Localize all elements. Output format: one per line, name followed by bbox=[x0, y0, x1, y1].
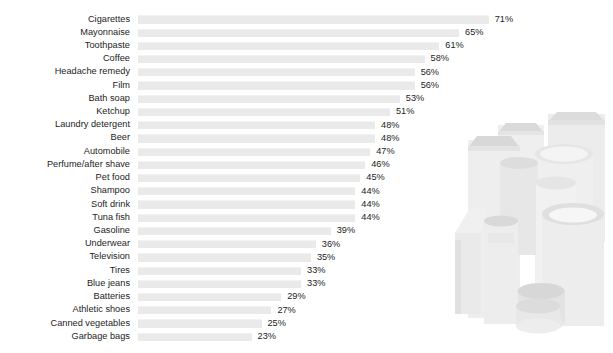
bar-value-label: 36% bbox=[322, 238, 340, 251]
category-label: Ketchup bbox=[0, 105, 130, 118]
chart-row: Laundry detergent48% bbox=[0, 119, 613, 132]
category-label: Film bbox=[0, 79, 130, 92]
category-label: Soft drink bbox=[0, 198, 130, 211]
bar-value-label: 48% bbox=[381, 119, 399, 132]
chart-row: Toothpaste61% bbox=[0, 39, 613, 52]
plot-area: Cigarettes71%Mayonnaise65%Toothpaste61%C… bbox=[0, 13, 613, 343]
bar-track: 47% bbox=[138, 148, 370, 156]
category-label: Perfume/after shave bbox=[0, 158, 130, 171]
chart-row: Blue jeans33% bbox=[0, 277, 613, 290]
bar bbox=[138, 68, 415, 76]
bar-track: 35% bbox=[138, 253, 311, 261]
bar-value-label: 39% bbox=[337, 224, 355, 237]
bar-value-label: 58% bbox=[431, 52, 449, 65]
category-label: Headache remedy bbox=[0, 65, 130, 78]
chart-row: Television35% bbox=[0, 251, 613, 264]
category-label: Underwear bbox=[0, 237, 130, 250]
category-label: Canned vegetables bbox=[0, 317, 130, 330]
category-label: Shampoo bbox=[0, 184, 130, 197]
bar-value-label: 44% bbox=[361, 185, 379, 198]
chart-row: Ketchup51% bbox=[0, 106, 613, 119]
bar-value-label: 65% bbox=[465, 26, 483, 39]
bar-value-label: 47% bbox=[376, 145, 394, 158]
bar bbox=[138, 42, 439, 50]
bar-value-label: 56% bbox=[421, 66, 439, 79]
chart-row: Cigarettes71% bbox=[0, 13, 613, 26]
bar bbox=[138, 148, 370, 156]
bar bbox=[138, 280, 301, 288]
bar-track: 53% bbox=[138, 95, 400, 103]
bar-value-label: 56% bbox=[421, 79, 439, 92]
category-label: Television bbox=[0, 250, 130, 263]
bar-track: 71% bbox=[138, 15, 489, 23]
chart-row: Tuna fish44% bbox=[0, 211, 613, 224]
bar bbox=[138, 227, 331, 235]
chart-row: Underwear36% bbox=[0, 238, 613, 251]
bar-value-label: 71% bbox=[495, 13, 513, 26]
bar-track: 25% bbox=[138, 319, 262, 327]
bar-track: 36% bbox=[138, 240, 316, 248]
bar bbox=[138, 108, 390, 116]
category-label: Mayonnaise bbox=[0, 26, 130, 39]
bar-track: 33% bbox=[138, 280, 301, 288]
bar-value-label: 61% bbox=[445, 39, 463, 52]
bar bbox=[138, 319, 262, 327]
chart-row: Tires33% bbox=[0, 264, 613, 277]
bar-track: 65% bbox=[138, 29, 459, 37]
bar-value-label: 35% bbox=[317, 251, 335, 264]
bar bbox=[138, 121, 375, 129]
bar-value-label: 53% bbox=[406, 92, 424, 105]
bar bbox=[138, 333, 252, 341]
category-label: Tuna fish bbox=[0, 211, 130, 224]
bar-track: 44% bbox=[138, 214, 355, 222]
category-label: Automobile bbox=[0, 145, 130, 158]
bar bbox=[138, 15, 489, 23]
chart-row: Headache remedy56% bbox=[0, 66, 613, 79]
chart-row: Batteries29% bbox=[0, 291, 613, 304]
category-label: Gasoline bbox=[0, 224, 130, 237]
chart-row: Canned vegetables25% bbox=[0, 317, 613, 330]
chart-row: Bath soap53% bbox=[0, 92, 613, 105]
bar bbox=[138, 306, 271, 314]
bar-value-label: 51% bbox=[396, 105, 414, 118]
category-label: Beer bbox=[0, 131, 130, 144]
bar-track: 27% bbox=[138, 306, 271, 314]
bar bbox=[138, 161, 365, 169]
bar-track: 61% bbox=[138, 42, 439, 50]
bar bbox=[138, 81, 415, 89]
bar-track: 39% bbox=[138, 227, 331, 235]
category-label: Garbage bags bbox=[0, 330, 130, 343]
chart-row: Athletic shoes27% bbox=[0, 304, 613, 317]
category-label: Pet food bbox=[0, 171, 130, 184]
bar-track: 51% bbox=[138, 108, 390, 116]
chart-row: Gasoline39% bbox=[0, 225, 613, 238]
chart-row: Automobile47% bbox=[0, 145, 613, 158]
bar bbox=[138, 134, 375, 142]
chart-row: Beer48% bbox=[0, 132, 613, 145]
bar-track: 33% bbox=[138, 267, 301, 275]
chart-row: Film56% bbox=[0, 79, 613, 92]
bar-value-label: 23% bbox=[258, 330, 276, 343]
bar-value-label: 25% bbox=[268, 317, 286, 330]
category-label: Blue jeans bbox=[0, 277, 130, 290]
bar-value-label: 48% bbox=[381, 132, 399, 145]
category-label: Laundry detergent bbox=[0, 118, 130, 131]
bar bbox=[138, 95, 400, 103]
bar-track: 45% bbox=[138, 174, 360, 182]
chart-row: Soft drink44% bbox=[0, 198, 613, 211]
bar bbox=[138, 253, 311, 261]
category-label: Coffee bbox=[0, 52, 130, 65]
bar bbox=[138, 55, 425, 63]
horizontal-bar-chart: Cigarettes71%Mayonnaise65%Toothpaste61%C… bbox=[0, 0, 613, 353]
category-label: Athletic shoes bbox=[0, 303, 130, 316]
bar-track: 58% bbox=[138, 55, 425, 63]
chart-row: Garbage bags23% bbox=[0, 330, 613, 343]
category-label: Cigarettes bbox=[0, 13, 130, 26]
bar bbox=[138, 174, 360, 182]
bar-track: 48% bbox=[138, 134, 375, 142]
bar-track: 23% bbox=[138, 333, 252, 341]
category-label: Tires bbox=[0, 264, 130, 277]
bar bbox=[138, 29, 459, 37]
bar bbox=[138, 293, 281, 301]
bar-track: 29% bbox=[138, 293, 281, 301]
